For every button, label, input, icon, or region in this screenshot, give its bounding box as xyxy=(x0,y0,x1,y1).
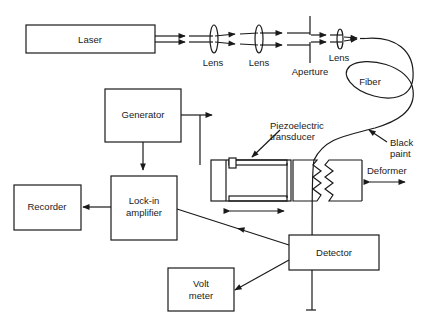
detector-to-lockin-wire xyxy=(177,209,289,245)
svg-text:Fiber: Fiber xyxy=(359,76,381,87)
lockin-amplifier-box: Lock-in amplifier xyxy=(111,176,177,240)
lens-3: Lens xyxy=(329,29,350,63)
svg-text:Piezoelectric: Piezoelectric xyxy=(270,120,324,131)
generator-box: Generator xyxy=(105,89,181,142)
black-paint-label: Black paint xyxy=(369,130,413,159)
svg-text:Generator: Generator xyxy=(122,109,165,120)
piezo-transducer: Piezoelectric transducer xyxy=(211,120,324,211)
detector-box: Detector xyxy=(289,235,379,270)
laser-beam xyxy=(155,33,365,45)
svg-text:Detector: Detector xyxy=(316,247,352,258)
svg-text:Aperture: Aperture xyxy=(292,66,328,77)
voltmeter-box: Volt meter xyxy=(168,268,234,311)
svg-text:paint: paint xyxy=(390,148,411,159)
recorder-box: Recorder xyxy=(14,185,81,230)
svg-text:Black: Black xyxy=(390,137,413,148)
setup-diagram: Laser Lens Lens Aperture xyxy=(0,0,430,324)
laser-label: Laser xyxy=(78,34,102,45)
lens-2: Lens xyxy=(249,25,270,68)
svg-text:Deformer: Deformer xyxy=(367,165,407,176)
svg-text:Lens: Lens xyxy=(249,57,270,68)
deformer: Deformer xyxy=(293,160,407,201)
lens-1: Lens xyxy=(203,25,224,68)
svg-text:meter: meter xyxy=(189,290,213,301)
svg-text:amplifier: amplifier xyxy=(126,207,162,218)
svg-text:Recorder: Recorder xyxy=(27,201,66,212)
laser-box: Laser xyxy=(26,25,155,53)
aperture: Aperture xyxy=(292,16,328,77)
svg-text:Lens: Lens xyxy=(203,57,224,68)
svg-text:Lock-in: Lock-in xyxy=(129,195,160,206)
svg-text:Lens: Lens xyxy=(329,52,350,63)
detector-to-voltmeter-arrow xyxy=(235,260,289,290)
detector-to-lockin-arrow xyxy=(238,229,240,230)
svg-text:Volt: Volt xyxy=(193,278,209,289)
